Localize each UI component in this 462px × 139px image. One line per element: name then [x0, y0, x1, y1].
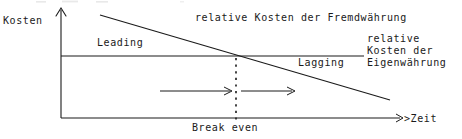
break-even-label: Break even — [192, 122, 258, 133]
own-currency-cost-label-line3: Eigenwährung — [367, 57, 446, 68]
diagram-canvas: Kosten relative Kosten der Fremdwährung … — [0, 0, 462, 139]
own-currency-cost-label-line2: Kosten der — [367, 45, 433, 56]
y-axis-label: Kosten — [3, 15, 43, 26]
own-currency-cost-label-line1: relative — [367, 33, 420, 44]
x-axis-label: >Zeit — [404, 113, 437, 124]
leading-label: Leading — [97, 37, 143, 48]
lagging-label: Lagging — [298, 57, 344, 68]
foreign-currency-cost-line — [100, 15, 390, 100]
scan-artifact-marks — [36, 1, 184, 3]
foreign-currency-cost-label: relative Kosten der Fremdwährung — [195, 12, 407, 23]
